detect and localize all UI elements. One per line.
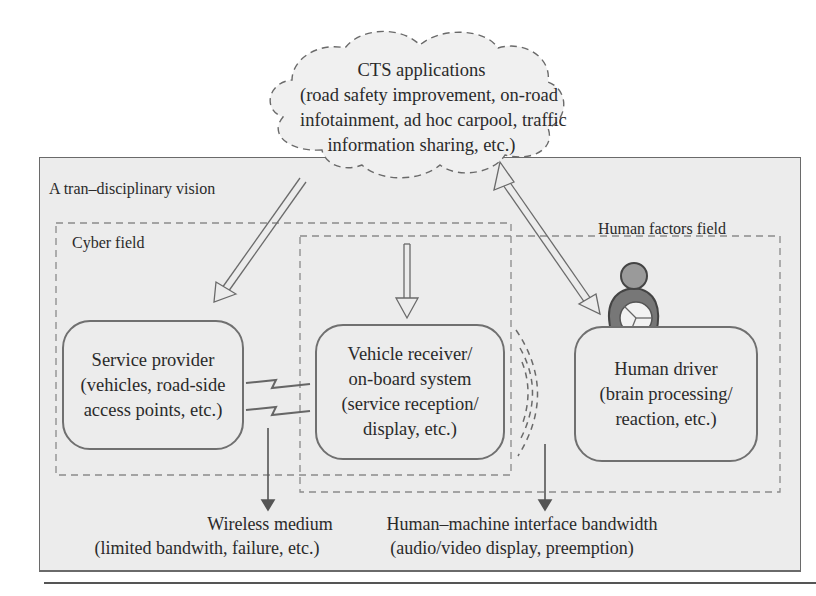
cloud-title: CTS applications: [300, 58, 543, 83]
wireless-medium-title: Wireless medium: [190, 512, 350, 536]
human-factors-field-label: Human factors field: [598, 220, 726, 238]
arrow-cloud-to-service-provider: [214, 178, 306, 302]
wireless-medium-detail-text: (limited bandwith, failure, etc.): [62, 536, 352, 560]
hmi-bandwidth-annotation: Human–machine interface bandwidth: [362, 512, 682, 536]
service-provider-node: Service provider (vehicles, road-side ac…: [62, 320, 244, 450]
cloud-line: (road safety improvement, on-road: [300, 83, 543, 108]
arrow-wireless-medium: [262, 428, 274, 510]
arrow-cloud-to-vehicle-receiver: [396, 244, 418, 318]
figure-separator-rule: [44, 582, 816, 584]
hmi-bandwidth-detail-text: (audio/video display, preemption): [362, 536, 662, 560]
arrow-cloud-to-human-driver: [494, 162, 600, 314]
cts-applications-text: CTS applications (road safety improvemen…: [300, 58, 543, 158]
node-line: access points, etc.): [81, 398, 226, 423]
node-line: (service reception/: [341, 392, 478, 417]
hmi-signal-arcs: [516, 330, 538, 456]
cloud-line: infotainment, ad hoc carpool, traffic: [300, 108, 543, 133]
node-line: display, etc.): [341, 417, 478, 442]
node-line: (brain processing/: [599, 382, 732, 407]
hmi-bandwidth-detail: (audio/video display, preemption): [362, 536, 662, 560]
node-line: Vehicle receiver/: [341, 342, 478, 367]
node-line: Human driver: [599, 357, 732, 382]
human-driver-node: Human driver (brain processing/ reaction…: [574, 326, 758, 462]
node-line: Service provider: [81, 348, 226, 373]
wireless-medium-detail: (limited bandwith, failure, etc.): [62, 536, 352, 560]
wireless-medium-annotation: Wireless medium: [190, 512, 350, 536]
hmi-bandwidth-title: Human–machine interface bandwidth: [362, 512, 682, 536]
node-line: reaction, etc.): [599, 407, 732, 432]
arrow-hmi-bandwidth: [539, 444, 551, 510]
driver-icon: [609, 263, 658, 334]
cloud-line: information sharing, etc.): [300, 133, 543, 158]
node-line: on-board system: [341, 367, 478, 392]
vehicle-receiver-node: Vehicle receiver/ on-board system (servi…: [315, 324, 505, 460]
node-line: (vehicles, road-side: [81, 373, 226, 398]
cyber-field-label: Cyber field: [72, 234, 144, 252]
